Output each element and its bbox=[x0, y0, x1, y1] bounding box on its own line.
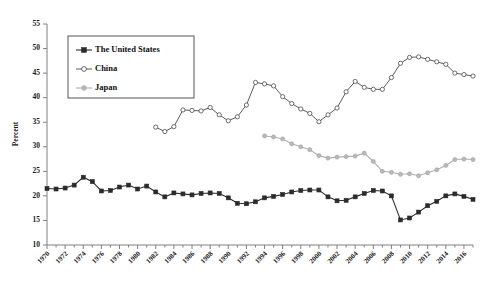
data-point-us bbox=[299, 188, 303, 192]
data-point-cn bbox=[426, 57, 430, 61]
data-point-cn bbox=[407, 55, 411, 59]
data-point-jp bbox=[435, 168, 439, 172]
series-line-us bbox=[47, 177, 473, 220]
data-point-us bbox=[317, 188, 321, 192]
data-point-us bbox=[426, 204, 430, 208]
data-point-cn bbox=[326, 113, 330, 117]
data-point-cn bbox=[435, 60, 439, 64]
data-point-cn bbox=[398, 61, 402, 65]
x-tick-label: 1998 bbox=[290, 249, 306, 265]
data-point-cn bbox=[253, 80, 257, 84]
data-point-cn bbox=[308, 111, 312, 115]
data-point-us bbox=[253, 200, 257, 204]
data-point-jp bbox=[380, 169, 384, 173]
line-chart: 10152025303540455055 1970197219741976197… bbox=[0, 0, 481, 289]
x-tick-label: 2010 bbox=[398, 249, 414, 265]
data-point-cn bbox=[281, 95, 285, 99]
data-point-us bbox=[63, 186, 67, 190]
data-point-jp bbox=[426, 171, 430, 175]
data-point-cn bbox=[154, 125, 158, 129]
data-point-us bbox=[45, 187, 49, 191]
legend-label-jp: Japan bbox=[95, 82, 117, 92]
data-point-us bbox=[208, 191, 212, 195]
legend-marker-cn bbox=[82, 67, 87, 72]
data-point-jp bbox=[299, 145, 303, 149]
data-point-us bbox=[90, 180, 94, 184]
data-point-cn bbox=[471, 74, 475, 78]
data-point-jp bbox=[389, 170, 393, 174]
y-tick-label: 10 bbox=[33, 240, 41, 249]
data-point-us bbox=[172, 191, 176, 195]
data-point-cn bbox=[208, 105, 212, 109]
y-tick-label: 45 bbox=[33, 68, 41, 77]
data-point-cn bbox=[462, 72, 466, 76]
x-tick-label: 1982 bbox=[145, 249, 161, 265]
y-tick-label: 50 bbox=[33, 43, 41, 52]
data-point-us bbox=[199, 191, 203, 195]
data-point-us bbox=[362, 191, 366, 195]
data-point-us bbox=[389, 194, 393, 198]
data-point-us bbox=[308, 188, 312, 192]
data-point-us bbox=[290, 190, 294, 194]
data-point-jp bbox=[344, 155, 348, 159]
data-point-jp bbox=[262, 134, 266, 138]
x-tick-label: 1986 bbox=[181, 249, 197, 265]
data-point-us bbox=[380, 189, 384, 193]
data-point-cn bbox=[172, 125, 176, 129]
data-point-us bbox=[435, 199, 439, 203]
x-tick-label: 1996 bbox=[272, 249, 288, 265]
x-tick-label: 2006 bbox=[362, 249, 378, 265]
data-point-cn bbox=[226, 119, 230, 123]
data-point-cn bbox=[371, 87, 375, 91]
data-point-cn bbox=[453, 71, 457, 75]
data-point-cn bbox=[444, 62, 448, 66]
data-point-us bbox=[272, 194, 276, 198]
data-point-us bbox=[226, 196, 230, 200]
data-point-jp bbox=[362, 151, 366, 155]
data-point-us bbox=[99, 189, 103, 193]
data-point-jp bbox=[462, 157, 466, 161]
data-point-us bbox=[408, 216, 412, 220]
x-tick-label: 1990 bbox=[217, 249, 233, 265]
data-point-us bbox=[81, 175, 85, 179]
data-point-us bbox=[462, 194, 466, 198]
x-tick-label: 2016 bbox=[453, 249, 469, 265]
data-point-cn bbox=[217, 113, 221, 117]
x-tick-label: 2004 bbox=[344, 249, 360, 265]
data-point-us bbox=[263, 196, 267, 200]
x-tick-label: 2008 bbox=[380, 249, 396, 265]
data-point-us bbox=[118, 185, 122, 189]
data-point-us bbox=[371, 188, 375, 192]
data-point-cn bbox=[199, 109, 203, 113]
x-tick-label: 1988 bbox=[199, 249, 215, 265]
data-point-us bbox=[471, 197, 475, 201]
data-point-us bbox=[353, 195, 357, 199]
data-point-us bbox=[344, 198, 348, 202]
y-tick-label: 35 bbox=[33, 117, 41, 126]
data-point-us bbox=[217, 191, 221, 195]
y-tick-label: 40 bbox=[33, 92, 41, 101]
data-point-jp bbox=[398, 172, 402, 176]
x-tick-label: 2012 bbox=[417, 249, 433, 265]
y-tick-label: 20 bbox=[33, 191, 41, 200]
data-point-cn bbox=[362, 85, 366, 89]
data-point-cn bbox=[262, 82, 266, 86]
data-point-us bbox=[163, 195, 167, 199]
data-point-us bbox=[326, 195, 330, 199]
y-axis-ticks: 10152025303540455055 bbox=[33, 19, 48, 249]
y-tick-label: 55 bbox=[33, 19, 41, 28]
data-point-us bbox=[145, 184, 149, 188]
data-point-us bbox=[453, 192, 457, 196]
y-tick-label: 25 bbox=[33, 166, 41, 175]
data-point-cn bbox=[353, 79, 357, 83]
data-point-us bbox=[190, 193, 194, 197]
data-point-jp bbox=[281, 137, 285, 141]
data-point-us bbox=[54, 187, 58, 191]
data-point-jp bbox=[272, 135, 276, 139]
data-point-us bbox=[244, 202, 248, 206]
data-point-cn bbox=[417, 55, 421, 59]
x-tick-label: 1978 bbox=[108, 249, 124, 265]
x-tick-label: 2000 bbox=[308, 249, 324, 265]
x-tick-label: 1992 bbox=[235, 249, 251, 265]
data-point-jp bbox=[290, 142, 294, 146]
